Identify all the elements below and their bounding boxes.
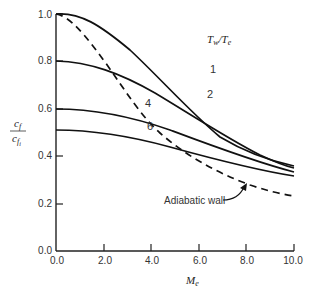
annotation-arrow [223, 187, 244, 200]
adiabatic-wall-label: Adiabatic wall [164, 195, 225, 206]
curve-label-6: 6 [147, 120, 153, 132]
curve-tw-te-1 [56, 14, 294, 166]
svg-text:cfi: cfi [12, 132, 21, 147]
chart: 0.0 0.2 0.4 0.6 0.8 1.0 0.0 2.0 4.0 6.0 … [0, 0, 309, 294]
x-tick-label: 6.0 [193, 255, 207, 266]
svg-text:cf: cf [14, 117, 23, 131]
x-ticks [104, 244, 294, 251]
curve-label-4: 4 [145, 97, 151, 109]
x-tick-label: 0.0 [50, 255, 64, 266]
y-tick-label: 1.0 [38, 9, 52, 20]
x-tick-label: 10.0 [283, 255, 303, 266]
curve-label-2: 2 [207, 88, 213, 100]
curve-tw-te-2 [56, 61, 294, 168]
y-tick-label: 0.8 [38, 55, 52, 66]
curve-tw-te-4 [56, 109, 294, 172]
x-tick-label: 4.0 [145, 255, 159, 266]
x-tick-label: 2.0 [98, 255, 112, 266]
curve-tw-te-6 [56, 130, 294, 176]
x-axis-label: Me [185, 274, 199, 288]
arrow-head-icon [240, 183, 247, 191]
y-axis-label: cf cfi [10, 117, 26, 147]
y-tick-label: 0.6 [38, 103, 52, 114]
x-tick-label: 8.0 [240, 255, 254, 266]
legend-title: Tw/Te [207, 33, 232, 47]
y-tick-label: 0.4 [38, 150, 52, 161]
y-tick-label: 0.2 [38, 198, 52, 209]
curve-label-1: 1 [210, 63, 216, 75]
